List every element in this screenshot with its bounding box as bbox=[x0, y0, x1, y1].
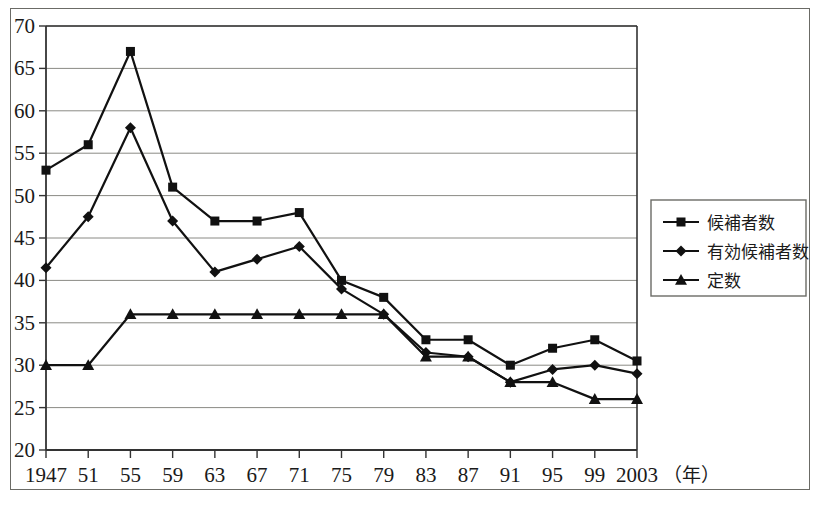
x-tick-label: 1947 bbox=[25, 463, 67, 487]
marker-square bbox=[506, 361, 515, 370]
y-tick-label: 20 bbox=[14, 438, 35, 462]
x-tick-label: 95 bbox=[542, 463, 563, 487]
x-tick-label: 87 bbox=[458, 463, 479, 487]
marker-square bbox=[677, 218, 686, 227]
x-tick-label: 83 bbox=[415, 463, 436, 487]
legend-label: 有効候補者数 bbox=[707, 242, 809, 262]
x-tick-label: 2003 bbox=[616, 463, 658, 487]
marker-square bbox=[295, 208, 304, 217]
y-tick-label: 30 bbox=[14, 353, 35, 377]
y-tick-label: 55 bbox=[14, 141, 35, 165]
x-tick-label: 79 bbox=[373, 463, 394, 487]
marker-square bbox=[633, 356, 642, 365]
x-tick-label: 71 bbox=[289, 463, 310, 487]
x-tick-label: 55 bbox=[120, 463, 141, 487]
y-tick-label: 65 bbox=[14, 56, 35, 80]
marker-square bbox=[210, 217, 219, 226]
marker-square bbox=[42, 166, 51, 175]
x-axis-unit-label: （年） bbox=[663, 464, 720, 486]
x-tick-label: 63 bbox=[204, 463, 225, 487]
x-tick-label: 51 bbox=[78, 463, 99, 487]
y-tick-label: 60 bbox=[14, 99, 35, 123]
y-tick-label: 35 bbox=[14, 311, 35, 335]
marker-square bbox=[84, 140, 93, 149]
marker-square bbox=[548, 344, 557, 353]
marker-square bbox=[464, 335, 473, 344]
x-tick-label: 75 bbox=[331, 463, 352, 487]
x-tick-label: 91 bbox=[500, 463, 521, 487]
y-tick-label: 70 bbox=[14, 14, 35, 38]
chart-figure: 2025303540455055606570194751555963677175… bbox=[0, 0, 822, 506]
marker-square bbox=[253, 217, 262, 226]
marker-square bbox=[590, 335, 599, 344]
legend: 候補者数有効候補者数定数 bbox=[651, 200, 809, 296]
x-tick-label: 67 bbox=[247, 463, 268, 487]
line-chart: 2025303540455055606570194751555963677175… bbox=[0, 0, 822, 506]
y-tick-label: 25 bbox=[14, 396, 35, 420]
y-tick-label: 50 bbox=[14, 184, 35, 208]
y-tick-label: 45 bbox=[14, 226, 35, 250]
legend-label: 定数 bbox=[707, 271, 741, 291]
marker-square bbox=[168, 183, 177, 192]
legend-label: 候補者数 bbox=[707, 213, 775, 233]
marker-square bbox=[126, 47, 135, 56]
x-tick-label: 59 bbox=[162, 463, 183, 487]
x-axis-ticks: 1947515559636771757983879195992003 bbox=[25, 450, 658, 487]
y-tick-label: 40 bbox=[14, 268, 35, 292]
x-tick-label: 99 bbox=[584, 463, 605, 487]
marker-square bbox=[379, 293, 388, 302]
marker-square bbox=[421, 335, 430, 344]
